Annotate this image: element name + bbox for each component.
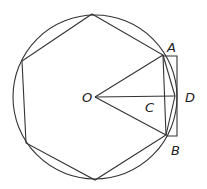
label-B: B [171,143,180,158]
inscribed-hexagon [22,14,166,180]
label-A: A [166,40,176,55]
radius-OD [95,96,175,97]
label-O: O [82,90,92,105]
radius-OA [95,55,163,97]
radius-OB [95,97,166,135]
diagram-canvas: A B C D O [0,0,207,189]
label-D: D [185,90,195,105]
label-C: C [145,100,155,115]
geometry-figure: A B C D O [0,0,207,189]
